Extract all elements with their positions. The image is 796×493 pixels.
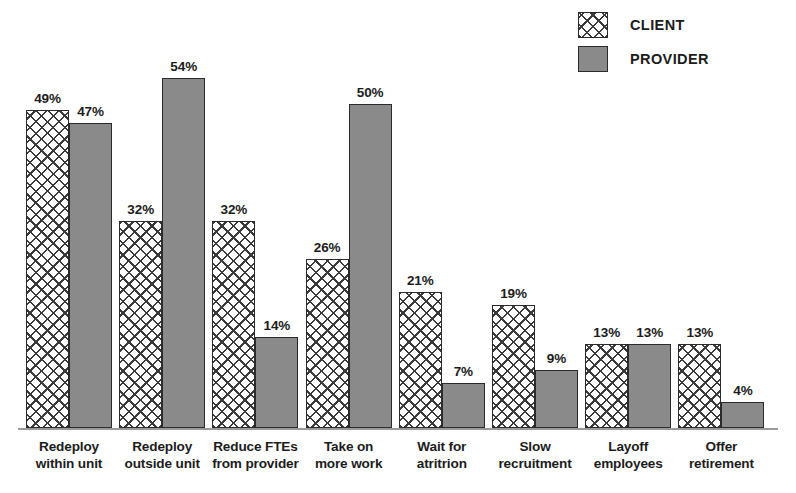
bar-client-1 xyxy=(119,221,162,428)
bar-client-6 xyxy=(585,344,628,428)
bar-value-label-provider-0: 47% xyxy=(63,104,118,119)
bar-provider-4 xyxy=(442,383,485,428)
bar-provider-2 xyxy=(255,337,298,428)
bar-client-3 xyxy=(306,259,349,428)
bar-value-label-provider-3: 50% xyxy=(343,85,398,100)
bar-client-0 xyxy=(26,110,69,428)
bar-provider-6 xyxy=(628,344,671,428)
bar-value-label-provider-6: 13% xyxy=(622,325,677,340)
bar-value-label-client-4: 21% xyxy=(393,273,448,288)
x-axis-line xyxy=(18,428,778,430)
bar-value-label-provider-7: 4% xyxy=(715,383,770,398)
plot-area: 49%47%32%54%32%14%26%50%21%7%19%9%13%13%… xyxy=(0,0,796,493)
bar-value-label-provider-4: 7% xyxy=(436,364,491,379)
bar-chart: CLIENT PROVIDER 49%47%32%54%32%14%26%50%… xyxy=(0,0,796,493)
bar-value-label-provider-5: 9% xyxy=(529,351,584,366)
category-label-7: Offerretirement xyxy=(664,438,778,472)
bar-value-label-client-1: 32% xyxy=(113,202,168,217)
bar-value-label-client-3: 26% xyxy=(300,240,355,255)
bar-value-label-provider-2: 14% xyxy=(249,318,304,333)
bar-client-5 xyxy=(492,305,535,428)
bar-provider-3 xyxy=(349,104,392,428)
category-label-line: Offer xyxy=(664,438,778,455)
bar-provider-7 xyxy=(721,402,764,428)
bar-provider-5 xyxy=(535,370,578,428)
bar-client-4 xyxy=(399,292,442,428)
bar-provider-0 xyxy=(69,123,112,428)
bar-provider-1 xyxy=(162,78,205,428)
bar-value-label-provider-1: 54% xyxy=(156,59,211,74)
bar-value-label-client-5: 19% xyxy=(486,286,541,301)
bar-value-label-client-2: 32% xyxy=(206,202,261,217)
category-label-line: retirement xyxy=(664,455,778,472)
bar-value-label-client-7: 13% xyxy=(672,325,727,340)
